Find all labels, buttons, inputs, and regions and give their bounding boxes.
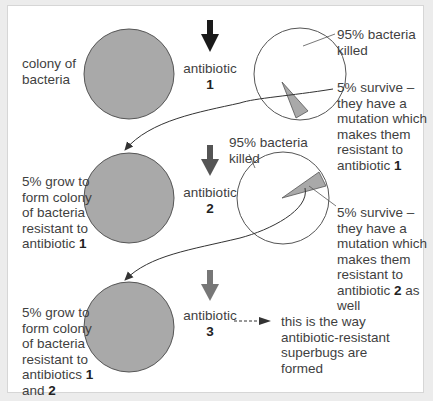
colony-circle-2 — [84, 153, 174, 243]
antibiotic-1-arrow-icon — [201, 20, 219, 52]
colony-label-3: 5% grow to form colony of bacteria resis… — [22, 305, 93, 398]
colony-label-3-text: 5% grow to form colony of bacteria resis… — [22, 305, 92, 382]
antibiotic-2-text: antibiotic — [180, 185, 240, 201]
antibiotic-2-arrow-icon — [201, 145, 219, 176]
killed-label-1: 95% bacteria killed — [337, 27, 416, 58]
antibiotic-3-text: antibiotic — [180, 308, 240, 324]
colony-circle-3 — [84, 282, 174, 372]
colony-label-3-mid: and — [22, 383, 48, 398]
colony-label-1: colony of bacteria — [22, 56, 76, 87]
survive-label-2: 5% survive – they have a mutation which … — [337, 205, 427, 314]
antibiotic-3-label: antibiotic 3 — [180, 308, 240, 339]
antibiotic-1-text: antibiotic — [180, 61, 240, 77]
conclusion-label: this is the way antibiotic-resistant sup… — [281, 314, 390, 376]
antibiotic-2-label: antibiotic 2 — [180, 185, 240, 216]
colony-label-3-number-1: 1 — [86, 367, 94, 382]
antibiotic-1-number: 1 — [206, 77, 214, 92]
antibiotic-3-arrow-icon — [201, 270, 219, 301]
antibiotic-3-number: 3 — [206, 324, 214, 339]
survive-label-2-number: 2 — [394, 283, 402, 298]
survive-label-1-number: 1 — [394, 158, 402, 173]
antibiotic-2-number: 2 — [206, 201, 214, 216]
colony-label-2-number: 1 — [79, 236, 87, 251]
survive-label-1-text: 5% survive – they have a mutation which … — [337, 80, 427, 173]
colony-label-3-number-2: 2 — [48, 383, 56, 398]
colony-label-2: 5% grow to form colony of bacteria resis… — [22, 174, 92, 252]
antibiotic-1-label: antibiotic 1 — [180, 61, 240, 92]
survive-label-1: 5% survive – they have a mutation which … — [337, 80, 427, 173]
colony-circle-1 — [84, 29, 174, 119]
killed-label-2: 95% bacteria killed — [229, 135, 308, 166]
